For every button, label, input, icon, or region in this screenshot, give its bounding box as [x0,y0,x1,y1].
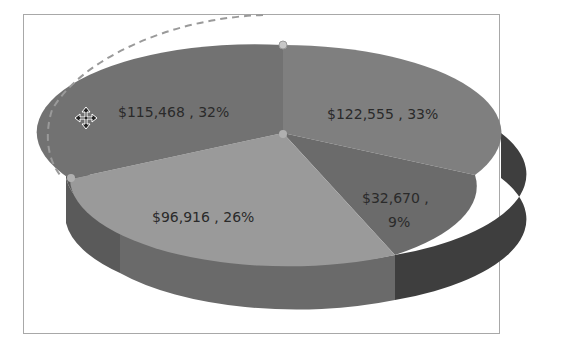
data-label-26[interactable]: $96,916 , 26% [152,209,254,225]
data-label-33[interactable]: $122,555 , 33% [327,106,438,122]
selection-handle[interactable] [279,41,287,49]
selection-handle[interactable] [279,130,287,138]
data-label-9-line1[interactable]: $32,670 , [362,190,429,206]
data-label-32[interactable]: $115,468 , 32% [118,104,229,120]
selection-handle[interactable] [67,174,75,182]
data-label-9-line2[interactable]: 9% [388,214,410,230]
pie-chart[interactable]: $122,555 , 33% $32,670 , 9% $96,916 , 26… [0,0,579,357]
